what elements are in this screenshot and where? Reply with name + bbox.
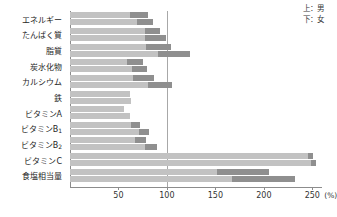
x-tick xyxy=(167,187,168,190)
bar-tip-segment xyxy=(130,12,147,18)
bar-tip-segment xyxy=(148,82,171,88)
category-label: たんぱく質 xyxy=(22,29,62,40)
bar-row xyxy=(70,44,322,50)
bar-tip-segment xyxy=(308,153,313,159)
bar-tip-segment xyxy=(131,122,140,128)
category-label: 鉄 xyxy=(54,92,62,103)
x-tick-label: 250 xyxy=(305,191,320,200)
bar-row xyxy=(70,66,322,72)
bar-tip-segment xyxy=(133,75,154,81)
bar-tip-segment xyxy=(139,129,149,135)
category-label: ビタミンC xyxy=(24,154,62,165)
x-tick-label: 150 xyxy=(208,191,223,200)
category-label: 脂質 xyxy=(46,45,62,56)
bar-row xyxy=(70,98,322,104)
bar-tip-segment xyxy=(132,66,147,72)
bar-male xyxy=(70,122,140,128)
bar-row xyxy=(70,19,322,25)
bar-row xyxy=(70,153,322,159)
bar-tip-segment xyxy=(232,176,295,182)
bar-row xyxy=(70,12,322,18)
bar-female xyxy=(70,129,149,135)
bar-row xyxy=(70,129,322,135)
bar-row xyxy=(70,122,322,128)
bar-tip-segment xyxy=(127,59,142,65)
bar-row xyxy=(70,82,322,88)
x-tick xyxy=(118,187,119,190)
category-label: ビタミンB1 xyxy=(21,123,62,134)
bar-tip-segment xyxy=(311,160,316,166)
x-tick xyxy=(312,187,313,190)
bar-row xyxy=(70,35,322,41)
bar-tip-segment xyxy=(137,19,154,25)
bar-tip-segment xyxy=(146,44,171,50)
bar-tip-segment xyxy=(145,144,157,150)
bar-row xyxy=(70,113,322,119)
category-label: ビタミンB2 xyxy=(21,138,62,149)
bar-row xyxy=(70,137,322,143)
x-tick-label: 200 xyxy=(256,191,271,200)
bar-row xyxy=(70,28,322,34)
bar-tip-segment xyxy=(145,28,160,34)
bar-row xyxy=(70,91,322,97)
x-tick-label: 100 xyxy=(159,191,174,200)
bar-row xyxy=(70,75,322,81)
category-label: 食塩相当量 xyxy=(22,170,62,181)
bar-female xyxy=(70,98,131,104)
category-label: ビタミンA xyxy=(25,107,62,118)
x-axis-line xyxy=(70,187,322,188)
bar-row xyxy=(70,176,322,182)
category-label: エネルギー xyxy=(22,13,62,24)
bar-tip-segment xyxy=(158,51,190,57)
bar-row xyxy=(70,144,322,150)
x-axis-unit-label: (%) xyxy=(324,191,337,200)
bar-row xyxy=(70,160,322,166)
bar-tip-segment xyxy=(145,35,166,41)
bar-tip-segment xyxy=(217,169,269,175)
bar-female xyxy=(70,113,130,119)
category-label: 炭水化物 xyxy=(30,60,62,71)
x-tick xyxy=(215,187,216,190)
category-axis-labels: エネルギーたんぱく質脂質炭水化物カルシウム鉄ビタミンAビタミンB1ビタミンB2ビ… xyxy=(0,11,66,183)
plot-area xyxy=(70,11,322,183)
bar-tip-segment xyxy=(135,137,146,143)
bar-row xyxy=(70,59,322,65)
x-tick-label: 50 xyxy=(113,191,123,200)
bar-row xyxy=(70,169,322,175)
bar-male xyxy=(70,91,130,97)
bar-female xyxy=(70,160,316,166)
bar-row xyxy=(70,51,322,57)
category-label: カルシウム xyxy=(22,76,62,87)
bar-male xyxy=(70,153,313,159)
bar-row xyxy=(70,106,322,112)
bar-male xyxy=(70,106,124,112)
x-tick xyxy=(264,187,265,190)
